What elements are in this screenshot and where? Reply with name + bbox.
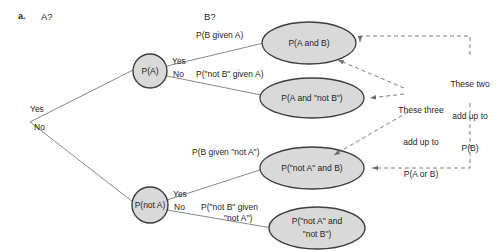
node-label-p-not-a-and-not-b-line2: "not B") xyxy=(303,230,332,240)
node-label-p-not-a-and-b: P("not A" and B) xyxy=(281,164,342,174)
edge-label-not-b-given-not-a-line1: P("not B" given xyxy=(201,203,258,213)
arrow-two-to-a-and-b xyxy=(360,36,470,55)
node-label-p-a-and-not-b: P(A and "not B") xyxy=(281,94,342,104)
annotation-two: These two add up to P(B) xyxy=(440,58,500,175)
edge-label-b-given-not-a: P(B given "not A") xyxy=(192,148,259,158)
p-a-yes-label: Yes xyxy=(172,57,186,67)
edge-label-b-given-a: P(B given A) xyxy=(196,31,243,41)
edge-root-to-p-not-a xyxy=(30,122,133,202)
edge-label-not-b-given-not-a-line2: "not A") xyxy=(224,214,252,224)
probability-tree-figure: a. A? B? Yes No Yes No Yes No P(B given … xyxy=(0,0,501,251)
node-label-p-a-and-b: P(A and B) xyxy=(288,39,329,49)
node-label-p-not-a: P(not A) xyxy=(135,201,166,211)
part-label: a. xyxy=(18,11,26,21)
edge-p-not-a-to-not-a-and-not-b xyxy=(167,210,272,228)
node-label-p-a: P(A) xyxy=(142,67,159,77)
annotation-two-line2: add up to xyxy=(440,111,500,122)
root-no-label: No xyxy=(34,123,45,133)
annotation-two-line1: These two xyxy=(440,79,500,90)
edge-root-to-p-a xyxy=(30,70,133,122)
p-not-a-no-label: No xyxy=(174,203,185,213)
node-p-not-a-and-not-b xyxy=(269,207,365,249)
p-not-a-yes-label: Yes xyxy=(173,190,187,200)
column-header-a: A? xyxy=(41,12,53,23)
annotation-two-line3: P(B) xyxy=(440,143,500,154)
column-header-b: B? xyxy=(204,12,216,23)
root-branch-lines xyxy=(30,70,133,202)
node-label-p-not-a-and-not-b-line1: P("not A" and xyxy=(292,217,342,227)
p-a-no-label: No xyxy=(173,70,184,80)
root-yes-label: Yes xyxy=(30,105,44,115)
edge-label-not-b-given-a: P("not B" given A) xyxy=(196,70,263,80)
